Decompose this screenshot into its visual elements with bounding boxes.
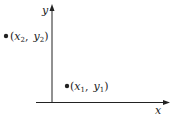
y-axis-arrow-icon [50, 4, 55, 11]
coordinate-diagram: y x (x2,y2) (x1,y1) [0, 0, 175, 120]
point-2-dot [4, 34, 8, 38]
point-1-dot [65, 84, 69, 88]
point-1-label: (x1,y1) [70, 80, 108, 94]
x-axis-arrow-icon [163, 100, 170, 105]
y-axis-label: y [41, 4, 49, 17]
x-axis-label: x [155, 104, 162, 117]
point-2-label: (x2,y2) [10, 30, 48, 44]
